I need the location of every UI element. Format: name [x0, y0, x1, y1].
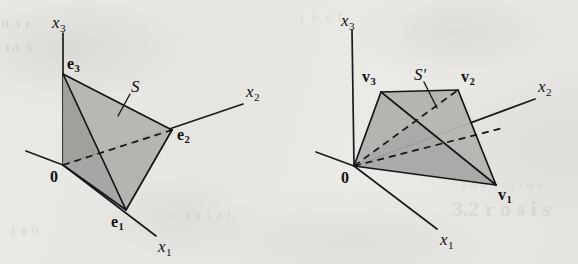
left-panel-group	[26, 33, 243, 236]
figure-container: 0 3 r to v 1 0 0 r a 1 a f 3.2 r o s i s…	[0, 0, 578, 264]
right-axis-x2-negative	[316, 152, 354, 166]
right-axis-x3	[352, 30, 354, 166]
diagram-svg	[0, 0, 578, 264]
left-axis-x2-negative	[26, 151, 63, 165]
right-panel-group	[316, 30, 535, 229]
